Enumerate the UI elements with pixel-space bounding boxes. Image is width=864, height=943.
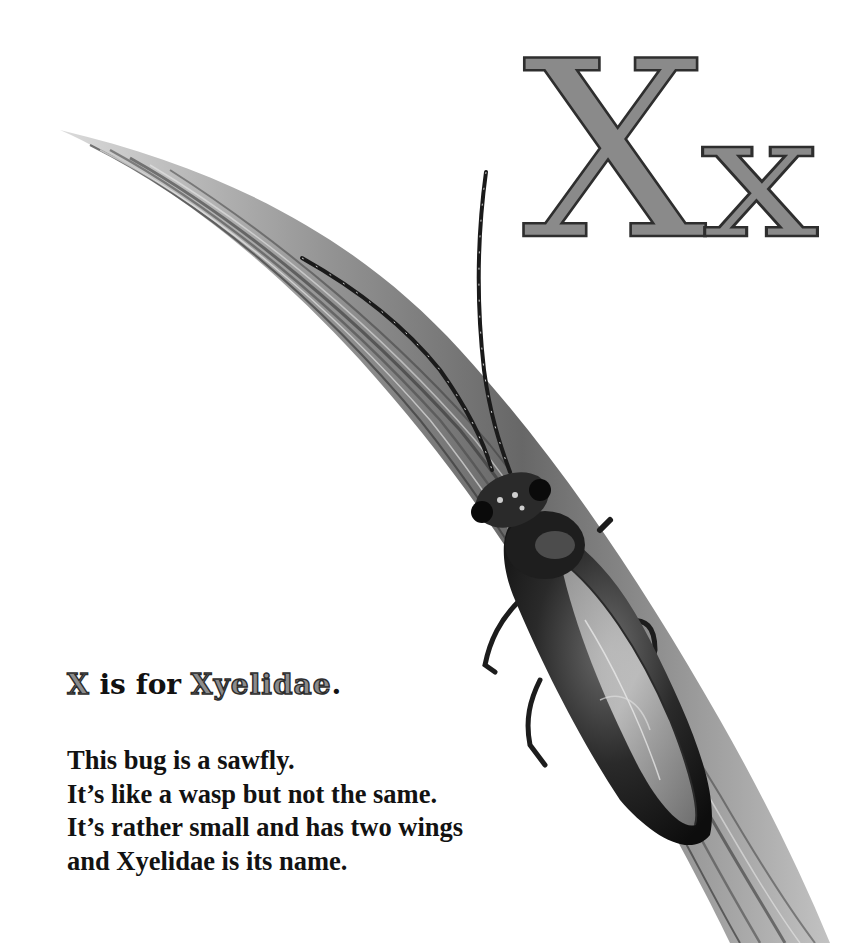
heading-period: .: [331, 668, 341, 701]
verse-line: It’s rather small and has two wings: [67, 811, 463, 845]
book-page: X x X is for Xyelidae. This bug is a saw…: [0, 0, 864, 943]
heading-connector: is for: [90, 668, 191, 701]
heading-letter: X: [67, 668, 90, 701]
verse-text: This bug is a sawfly. It’s like a wasp b…: [67, 744, 463, 878]
letter-uppercase: X: [522, 28, 707, 258]
verse-line: This bug is a sawfly.: [67, 744, 463, 778]
page-heading: X is for Xyelidae.: [67, 668, 341, 701]
heading-insect-name: Xyelidae: [191, 668, 332, 701]
verse-line: It’s like a wasp but not the same.: [67, 778, 463, 812]
letter-lowercase: x: [700, 78, 820, 258]
alphabet-letters: X x: [522, 28, 852, 258]
verse-line: and Xyelidae is its name.: [67, 845, 463, 879]
